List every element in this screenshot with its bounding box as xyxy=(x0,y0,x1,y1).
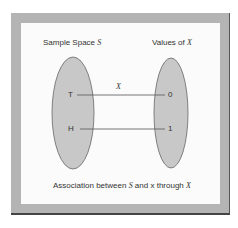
element-h: H xyxy=(68,124,74,133)
mapping-label: X xyxy=(116,82,121,91)
caption-s-symbol: S xyxy=(129,181,133,190)
values-title: Values of X xyxy=(152,38,192,47)
x-symbol: X xyxy=(187,38,192,47)
caption: Association between S and x through X xyxy=(53,181,191,190)
value-1: 1 xyxy=(168,124,172,133)
sample-space-label: Sample Space xyxy=(43,38,95,47)
sample-space-title: Sample Space S xyxy=(43,38,101,47)
caption-text-a: Association between xyxy=(53,181,126,190)
value-0: 0 xyxy=(168,90,172,99)
diagram-graphics xyxy=(0,0,238,228)
sample-space-ellipse xyxy=(52,57,94,169)
caption-text-b: and x through xyxy=(135,181,184,190)
values-label: Values of xyxy=(152,38,185,47)
values-ellipse xyxy=(154,58,188,168)
s-symbol: S xyxy=(97,38,101,47)
caption-x-symbol: X xyxy=(186,181,191,190)
element-t: T xyxy=(68,90,73,99)
